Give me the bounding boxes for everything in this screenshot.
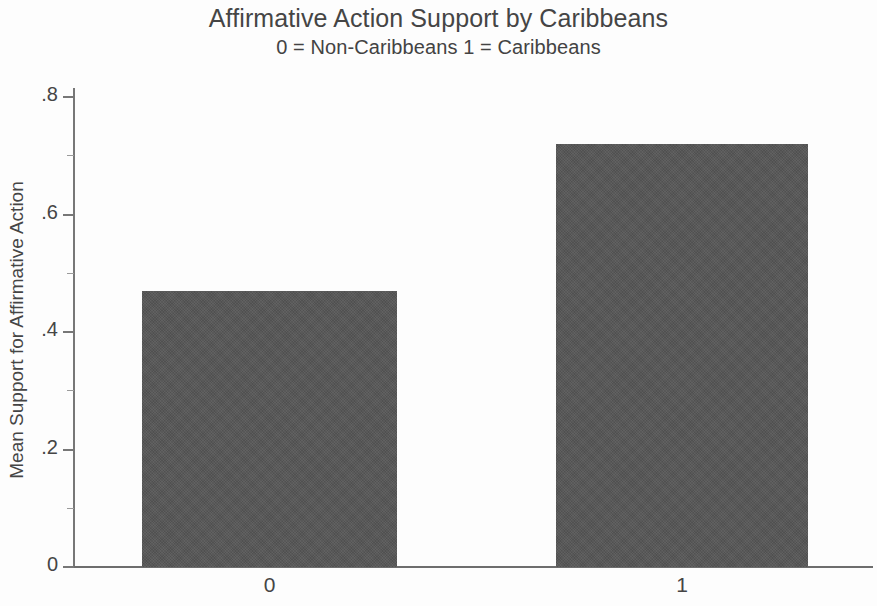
y-axis-tick-label: .2 xyxy=(0,436,58,459)
chart-subtitle: 0 = Non-Caribbeans 1 = Caribbeans xyxy=(0,34,877,61)
x-axis-tick-label: 1 xyxy=(556,573,808,597)
bars-layer xyxy=(73,90,873,567)
bar xyxy=(142,291,397,567)
bar-chart: Affirmative Action Support by Caribbeans… xyxy=(0,0,877,606)
x-axis-tick-label: 0 xyxy=(142,573,397,597)
page-title: Affirmative Action Support by Caribbeans xyxy=(0,2,877,34)
y-axis-tick-label: .6 xyxy=(0,201,58,224)
chart-title-block: Affirmative Action Support by Caribbeans… xyxy=(0,2,877,61)
y-axis-tick-label: 0 xyxy=(0,553,58,576)
y-axis-tick-label: .4 xyxy=(0,318,58,341)
y-axis-tick-label: .8 xyxy=(0,83,58,106)
bar xyxy=(556,144,808,567)
